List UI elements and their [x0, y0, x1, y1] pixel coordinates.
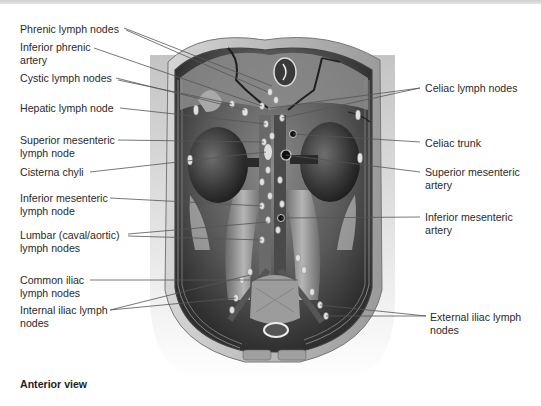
label-celiac-lymph-nodes: Celiac lymph nodes [425, 82, 517, 95]
label-celiac-trunk: Celiac trunk [425, 137, 481, 150]
label-cisterna-chyli: Cisterna chyli [20, 166, 84, 179]
label-superior-mesenteric-lymph-node: Superior mesenteric lymph node [20, 134, 115, 159]
label-external-iliac-lymph-nodes: External iliac lymph nodes [430, 311, 521, 336]
label-hepatic-lymph-node: Hepatic lymph node [20, 102, 114, 115]
label-common-iliac-lymph-nodes: Common iliac lymph nodes [20, 274, 84, 299]
figure-caption: Anterior view [20, 378, 87, 390]
lymphatic-anatomy-figure: Phrenic lymph nodes Inferior phrenic art… [0, 0, 541, 406]
label-inferior-mesenteric-lymph-node: Inferior mesenteric lymph node [20, 192, 108, 217]
label-inferior-mesenteric-artery: Inferior mesenteric artery [425, 211, 513, 236]
label-cystic-lymph-nodes: Cystic lymph nodes [20, 72, 112, 85]
label-internal-iliac-lymph-nodes: Internal iliac lymph nodes [20, 304, 108, 329]
label-phrenic-lymph-nodes: Phrenic lymph nodes [20, 23, 119, 36]
label-superior-mesenteric-artery: Superior mesenteric artery [425, 166, 520, 191]
label-inferior-phrenic-artery: Inferior phrenic artery [20, 41, 91, 66]
label-lumbar-lymph-nodes: Lumbar (caval/aortic) lymph nodes [20, 229, 120, 254]
